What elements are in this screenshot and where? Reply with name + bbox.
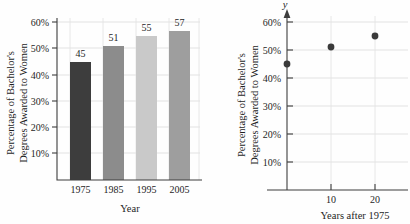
scatter-ytick-30: 30% xyxy=(263,101,281,112)
scatter-xtick-10: 10 xyxy=(326,194,336,205)
bar-value-2005: 57 xyxy=(175,17,185,28)
scatter-gridlines-vertical xyxy=(331,16,375,190)
bar-chart-svg: 45 51 55 57 60% 50% 40% 30% 20% 10% xyxy=(0,0,205,224)
scatter-ytick-40: 40% xyxy=(263,73,281,84)
scatter-ytick-10: 10% xyxy=(263,157,281,168)
bar-ytick-50: 50% xyxy=(31,43,49,54)
scatter-xlabel: Years after 1975 xyxy=(321,210,390,221)
bar-value-1975: 45 xyxy=(76,48,86,59)
scatter-plot-panel: 60% 50% 40% 30% 20% 10% 10 20 y Years af… xyxy=(205,0,410,224)
bar-chart-ylabel-line2: Degrees Awarded to Women xyxy=(18,42,29,162)
bar-ytick-20: 20% xyxy=(31,122,49,133)
bar-xtick-1985: 1985 xyxy=(104,184,124,195)
bar-chart-xlabel: Year xyxy=(120,203,140,214)
scatter-ytick-50: 50% xyxy=(263,45,281,56)
bar-ytick-30: 30% xyxy=(31,96,49,107)
scatter-gridlines-horizontal xyxy=(287,22,408,162)
bar-1995 xyxy=(136,36,157,180)
bar-xtick-1975: 1975 xyxy=(71,184,91,195)
bar-xtick-2005: 2005 xyxy=(170,184,190,195)
scatter-xtick-20: 20 xyxy=(370,194,380,205)
bar-chart-panel: 45 51 55 57 60% 50% 40% 30% 20% 10% xyxy=(0,0,205,224)
scatter-plot-svg: 60% 50% 40% 30% 20% 10% 10 20 y Years af… xyxy=(205,0,410,224)
y-axis-arrow-icon xyxy=(284,9,291,18)
scatter-ytick-60: 60% xyxy=(263,17,281,28)
bar-1975 xyxy=(70,62,91,180)
scatter-ytick-20: 20% xyxy=(263,129,281,140)
bar-value-1995: 55 xyxy=(142,22,152,33)
bar-chart-y-ticks xyxy=(52,22,57,153)
bar-1985 xyxy=(103,46,124,180)
figure-root: 45 51 55 57 60% 50% 40% 30% 20% 10% xyxy=(0,0,410,224)
bar-xtick-1995: 1995 xyxy=(137,184,157,195)
scatter-y-ticks xyxy=(287,22,293,162)
data-point-10 xyxy=(328,44,335,51)
scatter-ylabel-line1: Percentage of Bachelor's xyxy=(236,53,247,157)
data-point-20 xyxy=(372,33,379,40)
bar-value-1985: 51 xyxy=(109,32,119,43)
bar-ytick-60: 60% xyxy=(31,17,49,28)
data-point-0 xyxy=(284,61,291,68)
bar-ytick-40: 40% xyxy=(31,70,49,81)
scatter-ylabel-line2: Degrees Awarded to Women xyxy=(249,44,260,164)
bar-2005 xyxy=(169,31,190,180)
scatter-x-ticks xyxy=(331,184,375,190)
bar-ytick-10: 10% xyxy=(31,148,49,159)
scatter-y-axis-variable: y xyxy=(282,0,288,10)
bar-chart-ylabel-line1: Percentage of Bachelor's xyxy=(5,51,16,155)
